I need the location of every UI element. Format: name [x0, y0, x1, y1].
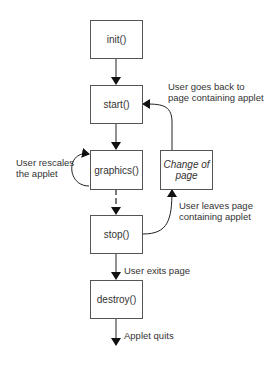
node-destroy: destroy() — [90, 280, 143, 319]
label-goes-back-1: User goes back to — [168, 81, 245, 92]
label-goes-back-2: page containing applet — [168, 92, 264, 103]
node-stop: stop() — [90, 215, 143, 254]
node-change-of-page: Change of page — [160, 150, 213, 190]
node-init: init() — [90, 20, 143, 59]
node-destroy-label: destroy() — [97, 294, 136, 305]
label-quits: Applet quits — [124, 330, 174, 341]
label-leaves-2: containing applet — [179, 211, 251, 222]
label-rescales-2: the applet — [16, 168, 58, 179]
node-graphics-label: graphics() — [94, 165, 138, 176]
arrow-change-start — [143, 104, 172, 150]
node-change-label-1: Change of — [163, 159, 209, 170]
label-leaves-1: User leaves page — [179, 200, 253, 211]
node-graphics: graphics() — [90, 150, 143, 190]
label-exits: User exits page — [124, 265, 190, 276]
node-init-label: init() — [107, 34, 126, 45]
node-change-label-2: page — [175, 170, 197, 181]
label-rescales-1: User rescales — [16, 157, 74, 168]
node-start: start() — [90, 85, 143, 124]
arrow-graphics-loop — [72, 154, 89, 186]
node-start-label: start() — [103, 99, 129, 110]
arrow-stop-change — [143, 190, 172, 234]
node-stop-label: stop() — [104, 229, 130, 240]
